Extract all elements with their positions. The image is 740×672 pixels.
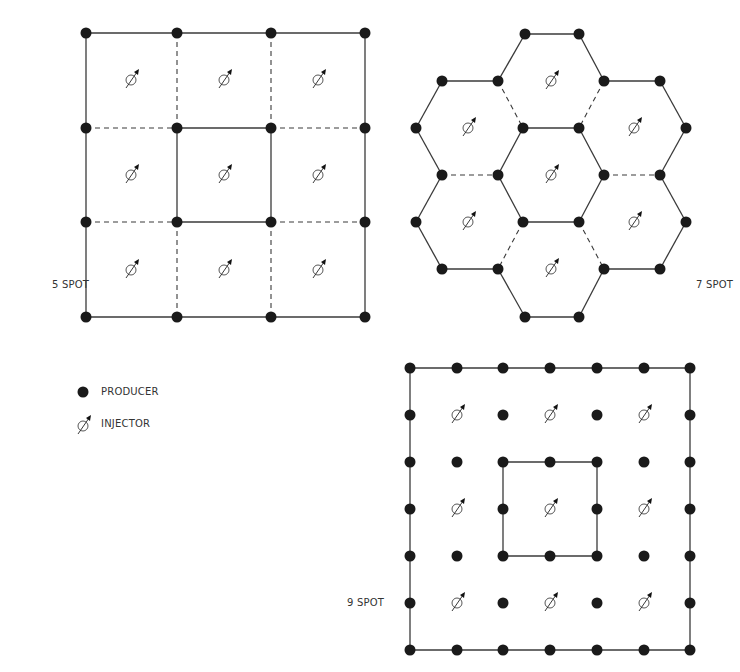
producer-well-icon	[498, 457, 509, 468]
boundary-line	[416, 128, 442, 175]
legend-producer-dot-icon	[78, 387, 89, 398]
producer-well-icon	[685, 363, 696, 374]
seven-spot-label: 7 SPOT	[696, 279, 733, 290]
producer-well-icon	[685, 410, 696, 421]
producer-well-icon	[545, 363, 556, 374]
producer-well-icon	[592, 504, 603, 515]
producer-well-icon	[681, 217, 692, 228]
producer-well-icon	[639, 457, 650, 468]
producer-well-icon	[574, 29, 585, 40]
producer-well-icon	[639, 645, 650, 656]
injector-well-icon	[545, 592, 558, 611]
producer-well-icon	[545, 645, 556, 656]
injector-well-icon	[126, 164, 139, 183]
nine-spot-label: 9 SPOT	[347, 597, 384, 608]
producer-well-icon	[360, 217, 371, 228]
producer-well-icon	[498, 598, 509, 609]
producer-well-icon	[574, 217, 585, 228]
boundary-line	[416, 175, 442, 222]
seven-spot-pattern	[411, 29, 692, 323]
five-spot-pattern	[81, 28, 371, 323]
producer-well-icon	[599, 76, 610, 87]
producer-well-icon	[266, 123, 277, 134]
producer-well-icon	[639, 363, 650, 374]
producer-well-icon	[437, 264, 448, 275]
producer-well-icon	[655, 170, 666, 181]
producer-well-icon	[266, 312, 277, 323]
boundary-line	[660, 81, 686, 128]
producer-well-icon	[599, 264, 610, 275]
producer-well-icon	[405, 410, 416, 421]
injector-well-icon	[313, 259, 326, 278]
producer-well-icon	[518, 217, 529, 228]
injector-well-icon	[313, 69, 326, 88]
producer-well-icon	[681, 123, 692, 134]
injector-well-icon	[463, 211, 476, 230]
producer-well-icon	[574, 312, 585, 323]
producer-well-icon	[498, 551, 509, 562]
injector-well-icon	[545, 404, 558, 423]
producer-well-icon	[520, 29, 531, 40]
injector-well-icon	[639, 592, 652, 611]
five-spot-label: 5 SPOT	[52, 279, 89, 290]
injector-well-icon	[629, 211, 642, 230]
producer-well-icon	[545, 551, 556, 562]
producer-well-icon	[493, 76, 504, 87]
producer-well-icon	[452, 457, 463, 468]
pattern-divider-dashed-line	[579, 81, 604, 128]
producer-well-icon	[493, 264, 504, 275]
producer-well-icon	[172, 123, 183, 134]
boundary-line	[416, 222, 442, 269]
producer-well-icon	[545, 457, 556, 468]
legend-symbols	[78, 387, 92, 435]
producer-well-icon	[81, 123, 92, 134]
boundary-line	[660, 175, 686, 222]
injector-well-icon	[463, 117, 476, 136]
producer-well-icon	[405, 645, 416, 656]
producer-well-icon	[360, 312, 371, 323]
producer-well-icon	[592, 551, 603, 562]
injector-well-icon	[545, 498, 558, 517]
pattern-divider-dashed-line	[579, 222, 604, 269]
producer-well-icon	[172, 28, 183, 39]
producer-well-icon	[81, 28, 92, 39]
injector-well-icon	[219, 69, 232, 88]
injector-well-icon	[629, 117, 642, 136]
producer-well-icon	[493, 170, 504, 181]
boundary-line	[660, 222, 686, 269]
nine-spot-pattern	[405, 363, 696, 656]
producer-well-icon	[685, 457, 696, 468]
producer-well-icon	[411, 217, 422, 228]
producer-well-icon	[172, 312, 183, 323]
injector-well-icon	[219, 259, 232, 278]
producer-well-icon	[520, 312, 531, 323]
producer-well-icon	[592, 598, 603, 609]
boundary-line	[498, 175, 523, 222]
well-patterns-diagram	[0, 0, 740, 672]
producer-well-icon	[518, 123, 529, 134]
producer-well-icon	[685, 551, 696, 562]
producer-well-icon	[452, 363, 463, 374]
boundary-line	[579, 175, 604, 222]
boundary-line	[579, 269, 604, 317]
producer-well-icon	[405, 551, 416, 562]
producer-well-icon	[599, 170, 610, 181]
boundary-line	[660, 128, 686, 175]
producer-well-icon	[655, 76, 666, 87]
producer-well-icon	[452, 551, 463, 562]
boundary-line	[498, 34, 525, 81]
legend-injector-label: INJECTOR	[101, 418, 150, 429]
boundary-line	[498, 269, 525, 317]
injector-well-icon	[452, 404, 465, 423]
producer-well-icon	[172, 217, 183, 228]
producer-well-icon	[405, 598, 416, 609]
producer-well-icon	[360, 123, 371, 134]
producer-well-icon	[405, 363, 416, 374]
pattern-divider-dashed-line	[498, 222, 523, 269]
producer-well-icon	[685, 645, 696, 656]
producer-well-icon	[266, 28, 277, 39]
producer-well-icon	[639, 551, 650, 562]
injector-well-icon	[546, 164, 559, 183]
injector-well-icon	[546, 70, 559, 89]
producer-well-icon	[592, 645, 603, 656]
